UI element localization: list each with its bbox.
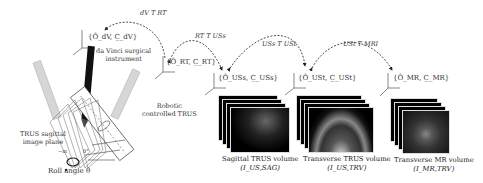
roll-tick-neg: −m bbox=[58, 148, 67, 156]
ghost-instrument-left bbox=[33, 60, 61, 119]
transform-label-dv-rt: dV T RT bbox=[140, 9, 166, 17]
sagittal-volume-stack bbox=[218, 95, 298, 155]
transverse-mr-volume-caption: Transverse MR volume (I_MR,TRV) bbox=[394, 156, 474, 174]
instrument-label: da Vinci surgical instrument bbox=[96, 48, 151, 63]
roll-tick-zero: 0° bbox=[83, 148, 89, 156]
roll-angle-label: Roll angle θ bbox=[48, 168, 90, 176]
robot-label: Robotic controlled TRUS bbox=[142, 103, 197, 118]
frame-label-ust: {Ô_USt, C̲_USt} bbox=[298, 74, 356, 82]
frame-label-uss: {Ô_USs, C̲_USs} bbox=[218, 74, 278, 82]
transverse-mr-volume-stack bbox=[390, 98, 470, 158]
frame-label-dv: {Ô_dV, C̲_dV} bbox=[88, 33, 137, 41]
transform-label-rt-uss: RT T USs bbox=[195, 32, 226, 40]
sagittal-volume-caption: Sagittal TRUS volume (I_US,SAG) bbox=[222, 155, 298, 173]
transform-label-ust-mr: USt T MRI bbox=[343, 40, 378, 48]
transverse-trus-volume-stack bbox=[296, 95, 381, 155]
frame-label-mr: {Ô_MR, C̲_MR} bbox=[393, 74, 449, 82]
frame-label-rt: {Ô_RT, C̲_RT} bbox=[166, 58, 216, 66]
ghost-instrument-right bbox=[111, 69, 140, 120]
transform-label-uss-ust: USs T USt bbox=[262, 40, 296, 48]
transverse-trus-volume-caption: Transverse TRUS volume (I_US,TRV) bbox=[303, 155, 391, 173]
sagittal-plane-label: TRUS sagittal image plane bbox=[20, 131, 66, 146]
